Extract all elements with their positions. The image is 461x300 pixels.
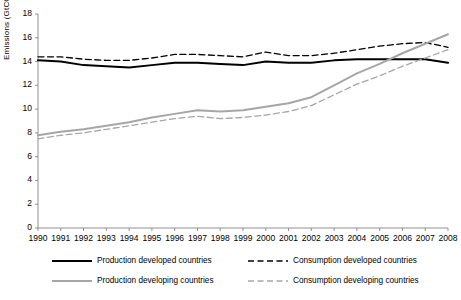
legend-item: Production developing countries bbox=[52, 276, 214, 285]
legend-swatch-icon bbox=[52, 277, 92, 285]
legend-swatch-icon bbox=[248, 257, 288, 265]
y-tick-label: 0 bbox=[10, 222, 32, 232]
y-tick-label: 4 bbox=[10, 174, 32, 184]
y-tick-label: 6 bbox=[10, 151, 32, 161]
series-line-1 bbox=[38, 43, 448, 61]
chart-canvas bbox=[0, 0, 457, 246]
series-line-2 bbox=[38, 34, 448, 135]
legend-label: Consumption developed countries bbox=[293, 256, 417, 265]
chart-legend: Production developed countriesConsumptio… bbox=[52, 256, 432, 296]
legend-item: Consumption developed countries bbox=[248, 256, 417, 265]
plot-area: Emissions (GtCO2) 024681012141618 199019… bbox=[0, 0, 457, 246]
y-tick-label: 2 bbox=[10, 198, 32, 208]
legend-swatch-icon bbox=[248, 277, 288, 285]
y-tick-label: 10 bbox=[10, 103, 32, 113]
legend-item: Production developed countries bbox=[52, 256, 212, 265]
legend-label: Production developed countries bbox=[97, 256, 212, 265]
legend-swatch-icon bbox=[52, 257, 92, 265]
y-tick-label: 18 bbox=[10, 8, 32, 18]
y-tick-label: 8 bbox=[10, 127, 32, 137]
legend-label: Consumption developing countries bbox=[293, 276, 419, 285]
series-line-3 bbox=[38, 50, 448, 139]
y-tick-label: 14 bbox=[10, 56, 32, 66]
x-tick-label: 2008 bbox=[435, 233, 461, 243]
legend-label: Production developing countries bbox=[97, 276, 214, 285]
y-tick-label: 12 bbox=[10, 79, 32, 89]
legend-item: Consumption developing countries bbox=[248, 276, 419, 285]
y-tick-label: 16 bbox=[10, 32, 32, 42]
